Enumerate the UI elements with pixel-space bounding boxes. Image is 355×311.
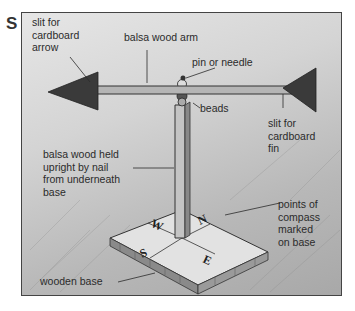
label-compass: points of compass marked on base [278,198,320,248]
label-upright: balsa wood held upright by nail from und… [43,148,120,198]
label-base: wooden base [40,275,102,288]
label-arm: balsa wood arm [124,31,198,44]
label-pin: pin or needle [192,56,253,69]
balsa-arm [75,86,293,94]
label-slit-fin: slit for cardboard fin [268,117,315,155]
label-slit-arrow: slit for cardboard arrow [32,16,79,54]
label-beads: beads [200,102,229,115]
cardboard-arrow [48,72,98,110]
cardboard-fin [283,68,316,112]
upright-post [175,102,190,238]
